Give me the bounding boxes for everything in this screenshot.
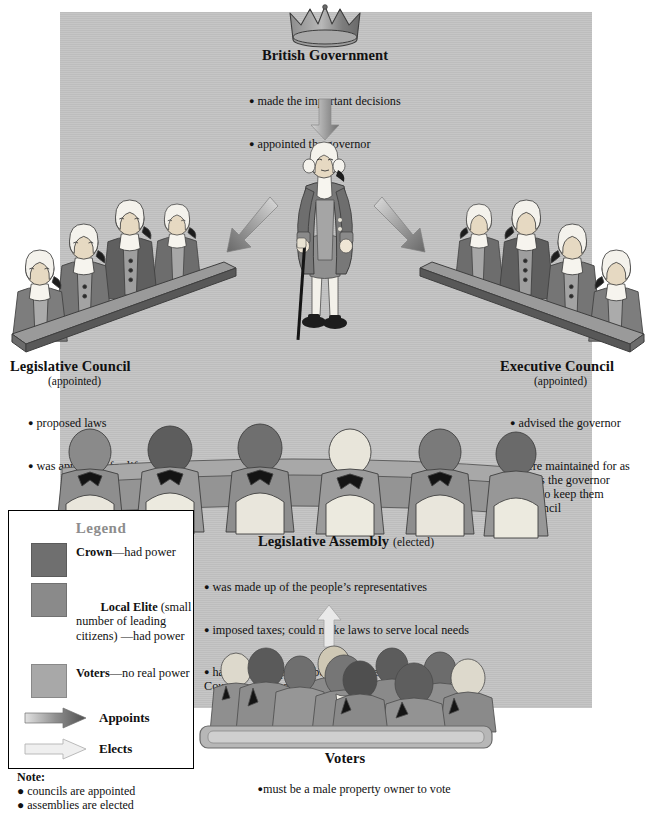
appoints-arrow-down: [310, 99, 340, 141]
appoints-arrow-icon: [25, 707, 87, 729]
node-voters: Voters ●must be a male property owner to…: [195, 750, 495, 810]
legislative-assembly-title: Legislative Assembly: [258, 533, 389, 549]
bullet-item: ● assemblies are elected: [17, 798, 193, 812]
legend-label-elects: Elects: [99, 741, 132, 757]
legend-row-local-elite: Local Elite (small number of leading cit…: [31, 583, 193, 658]
bullet-item: ● councils are appointed: [17, 784, 193, 798]
legend-row-crown: Crown—had power: [31, 543, 193, 577]
legend-desc-crown: —had power: [112, 545, 176, 559]
legend-note: Note: ● councils are appointed ● assembl…: [17, 770, 193, 813]
legend-heading: Legend: [9, 520, 193, 537]
bullet-item: ● advised the governor: [510, 416, 650, 430]
legislative-council-title: Legislative Council: [10, 358, 210, 375]
executive-council-figures: [424, 198, 648, 353]
legend-row-voters: Voters—no real power: [31, 664, 193, 698]
voters-title: Voters: [195, 750, 495, 767]
legislative-council-subtitle: (appointed): [10, 375, 210, 387]
legislative-assembly-subtitle: (elected): [393, 536, 434, 548]
elects-arrow-icon: [25, 738, 87, 760]
legend-label-local-elite: Local Elite: [101, 600, 158, 614]
bullet-item: ● was made up of the people’s representa…: [204, 580, 496, 594]
legislative-council-figures: [8, 198, 238, 353]
voters-figures: [196, 636, 496, 749]
legend-label-voters: Voters: [76, 666, 110, 680]
legend-box: Legend Crown—had power Local Elite (smal…: [8, 510, 194, 769]
legend-swatch-local-elite: [31, 583, 67, 617]
legend-swatch-voters: [31, 664, 67, 698]
legend-note-heading: Note:: [17, 770, 45, 784]
legend-swatch-crown: [31, 543, 67, 577]
british-government-title: British Government: [175, 47, 475, 64]
lieutenant-governor-figure: [276, 140, 372, 345]
legend-row-elects: Elects: [25, 738, 193, 760]
executive-council-subtitle: (appointed): [500, 375, 650, 387]
executive-council-title: Executive Council: [500, 358, 650, 375]
legend-desc-voters: —no real power: [110, 666, 190, 680]
bullet-item: ● imposed taxes; could make laws to serv…: [204, 623, 496, 637]
bullet-item: must be a male property owner to vote: [263, 782, 451, 796]
bullet-item: ● made the important decisions: [249, 94, 475, 108]
crown-icon: [287, 5, 363, 53]
legend-label-crown: Crown: [76, 545, 112, 559]
legend-row-appoints: Appoints: [25, 707, 193, 729]
legend-label-appoints: Appoints: [99, 710, 150, 726]
